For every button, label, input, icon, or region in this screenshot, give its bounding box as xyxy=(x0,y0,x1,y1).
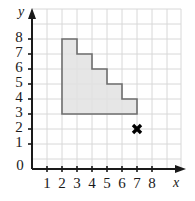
x-tick-label-7: 7 xyxy=(133,175,141,191)
x-tick-label-6: 6 xyxy=(118,175,126,191)
origin-label: 0 xyxy=(16,157,24,173)
y-tick-label-8: 8 xyxy=(15,29,23,45)
x-tick-label-8: 8 xyxy=(148,175,156,191)
y-tick-label-1: 1 xyxy=(15,134,23,150)
x-axis-label: x xyxy=(172,175,180,190)
x-tick-label-5: 5 xyxy=(103,175,111,191)
coordinate-grid-figure: 8 7 6 5 4 3 2 1 0 1 2 3 4 5 6 7 8 y x xyxy=(0,0,195,201)
y-tick-label-2: 2 xyxy=(15,119,23,135)
x-tick-label-1: 1 xyxy=(43,175,51,191)
x-tick-label-2: 2 xyxy=(58,175,66,191)
y-tick-label-3: 3 xyxy=(15,104,23,120)
x-tick-label-3: 3 xyxy=(73,175,81,191)
y-axis-label: y xyxy=(16,4,25,19)
plot-svg: 8 7 6 5 4 3 2 1 0 1 2 3 4 5 6 7 8 y x xyxy=(0,0,195,201)
y-tick-label-7: 7 xyxy=(15,44,23,60)
y-tick-label-5: 5 xyxy=(15,74,23,90)
y-tick-label-6: 6 xyxy=(15,59,23,75)
y-tick-label-4: 4 xyxy=(15,89,23,105)
x-tick-label-4: 4 xyxy=(88,175,96,191)
